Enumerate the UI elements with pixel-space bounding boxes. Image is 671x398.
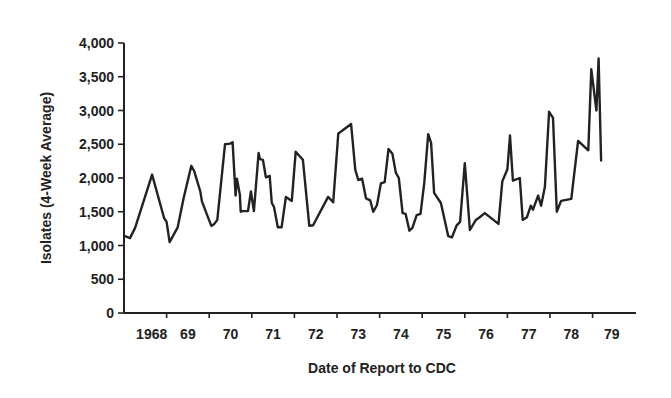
line-chart: 05001,0001,5002,0002,5003,0003,5004,000 … (0, 0, 671, 398)
x-tick-label: 75 (436, 326, 452, 342)
x-tick-label: 73 (351, 326, 367, 342)
x-tick-label: 71 (265, 326, 281, 342)
x-tick-label: 77 (521, 326, 537, 342)
y-tick-label: 500 (91, 271, 115, 287)
y-tick-label: 0 (106, 305, 114, 321)
x-tick-label: 79 (604, 326, 620, 342)
x-axis: 19686970717273747576777879 (124, 313, 636, 342)
x-tick-label: 76 (478, 326, 494, 342)
x-tick-label: 72 (308, 326, 324, 342)
y-tick-label: 2,500 (79, 136, 114, 152)
x-tick-label: 1968 (136, 326, 167, 342)
y-tick-label: 1,000 (79, 238, 114, 254)
data-line (125, 59, 601, 243)
y-axis: 05001,0001,5002,0002,5003,0003,5004,000 (79, 35, 124, 321)
x-tick-label: 78 (564, 326, 580, 342)
x-tick-label: 70 (223, 326, 239, 342)
y-tick-label: 1,500 (79, 204, 114, 220)
y-tick-label: 2,000 (79, 170, 114, 186)
y-tick-label: 3,000 (79, 103, 114, 119)
y-axis-title: Isolates (4-Week Average) (38, 92, 54, 264)
y-tick-label: 3,500 (79, 69, 114, 85)
y-tick-label: 4,000 (79, 35, 114, 51)
x-tick-label: 69 (180, 326, 196, 342)
x-tick-label: 74 (393, 326, 409, 342)
x-axis-title: Date of Report to CDC (308, 360, 456, 376)
